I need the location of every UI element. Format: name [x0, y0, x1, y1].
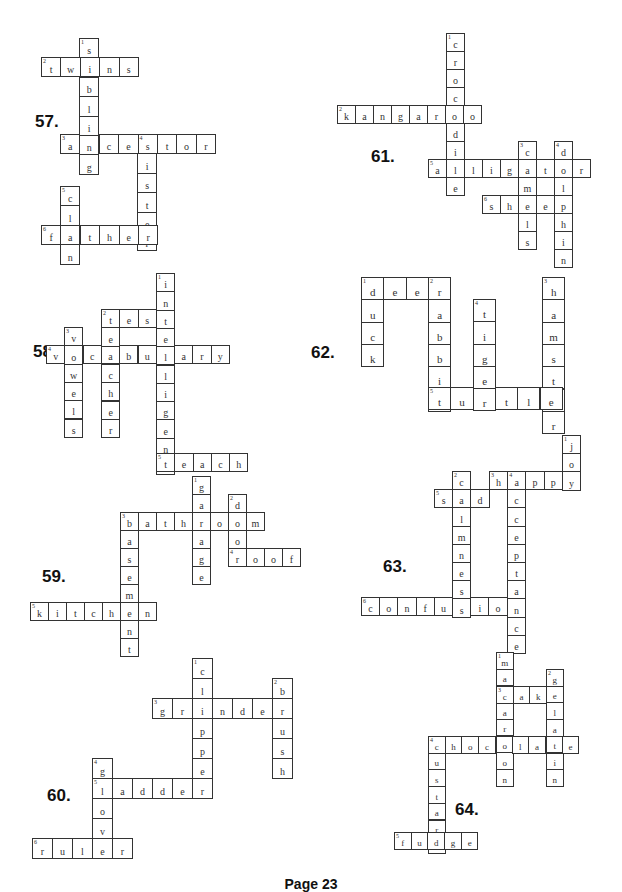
crossword-cell[interactable]: e: [540, 387, 563, 410]
crossword-cell[interactable]: s4: [138, 134, 158, 154]
crossword-cell[interactable]: t2: [101, 309, 120, 328]
crossword-cell[interactable]: s5: [434, 489, 453, 508]
crossword-cell[interactable]: o: [446, 69, 465, 88]
crossword-cell[interactable]: e: [172, 778, 193, 799]
crossword-cell[interactable]: c4: [428, 736, 446, 754]
crossword-cell[interactable]: c1: [192, 658, 213, 679]
crossword-cell[interactable]: b: [79, 77, 99, 97]
crossword-cell[interactable]: s: [137, 173, 157, 193]
crossword-cell[interactable]: d: [232, 698, 253, 719]
crossword-cell[interactable]: t5: [156, 453, 175, 472]
crossword-cell[interactable]: a5: [428, 159, 447, 178]
crossword-cell[interactable]: u: [138, 345, 157, 364]
crossword-cell[interactable]: e: [473, 366, 496, 389]
crossword-cell[interactable]: u: [272, 718, 293, 739]
crossword-cell[interactable]: r: [272, 698, 293, 719]
crossword-cell[interactable]: m: [542, 322, 565, 345]
crossword-cell[interactable]: g4: [92, 758, 113, 779]
crossword-cell[interactable]: p: [192, 718, 213, 739]
crossword-cell[interactable]: o: [461, 736, 479, 754]
crossword-cell[interactable]: c6: [361, 597, 380, 616]
crossword-cell[interactable]: f5: [394, 832, 412, 850]
crossword-cell[interactable]: t: [120, 638, 139, 657]
crossword-cell[interactable]: o: [264, 548, 283, 567]
crossword-cell[interactable]: k: [361, 344, 384, 367]
crossword-cell[interactable]: a3: [60, 134, 80, 154]
crossword-cell[interactable]: t: [156, 310, 175, 329]
crossword-cell[interactable]: r: [446, 51, 465, 70]
crossword-cell[interactable]: r: [496, 719, 514, 737]
crossword-cell[interactable]: i: [482, 159, 501, 178]
crossword-cell[interactable]: i: [546, 753, 564, 771]
crossword-cell[interactable]: b: [428, 344, 451, 367]
crossword-cell[interactable]: c: [507, 617, 526, 636]
crossword-cell[interactable]: o: [64, 345, 83, 364]
crossword-cell[interactable]: n: [212, 698, 233, 719]
crossword-cell[interactable]: r: [427, 105, 446, 124]
crossword-cell[interactable]: l: [518, 213, 537, 232]
crossword-cell[interactable]: t: [536, 159, 555, 178]
crossword-cell[interactable]: s: [428, 769, 446, 787]
crossword-cell[interactable]: e: [92, 838, 113, 859]
crossword-cell[interactable]: c: [211, 453, 230, 472]
crossword-cell[interactable]: e: [101, 327, 120, 346]
crossword-cell[interactable]: o: [554, 159, 573, 178]
crossword-cell[interactable]: e: [406, 277, 429, 300]
crossword-cell[interactable]: t4: [473, 299, 496, 322]
crossword-cell[interactable]: l: [546, 702, 564, 720]
crossword-cell[interactable]: p: [192, 738, 213, 759]
crossword-cell[interactable]: g: [192, 548, 211, 567]
crossword-cell[interactable]: e: [120, 566, 139, 585]
crossword-cell[interactable]: e: [192, 566, 211, 585]
crossword-cell[interactable]: a: [174, 345, 193, 364]
crossword-cell[interactable]: t2: [41, 57, 61, 77]
crossword-cell[interactable]: n: [496, 769, 514, 787]
crossword-cell[interactable]: k: [529, 686, 547, 704]
crossword-cell[interactable]: r: [138, 225, 158, 245]
crossword-cell[interactable]: i: [137, 153, 157, 173]
crossword-cell[interactable]: f6: [41, 225, 61, 245]
crossword-cell[interactable]: f: [416, 597, 435, 616]
crossword-cell[interactable]: o: [228, 530, 247, 549]
crossword-cell[interactable]: l: [79, 96, 99, 116]
crossword-cell[interactable]: i: [554, 231, 573, 250]
crossword-cell[interactable]: c: [507, 489, 526, 508]
crossword-cell[interactable]: h: [272, 758, 293, 779]
crossword-cell[interactable]: r: [572, 159, 591, 178]
crossword-cell[interactable]: t: [542, 366, 565, 389]
crossword-cell[interactable]: e: [174, 453, 193, 472]
crossword-cell[interactable]: h: [229, 453, 248, 472]
crossword-cell[interactable]: n: [120, 620, 139, 639]
crossword-cell[interactable]: e: [383, 277, 406, 300]
crossword-cell[interactable]: h: [102, 602, 121, 621]
crossword-cell[interactable]: h: [500, 195, 519, 214]
crossword-cell[interactable]: k2: [337, 105, 356, 124]
crossword-cell[interactable]: e: [452, 562, 471, 581]
crossword-cell[interactable]: d1: [361, 277, 384, 300]
crossword-cell[interactable]: e: [118, 134, 138, 154]
crossword-cell[interactable]: c5: [60, 186, 80, 206]
crossword-cell[interactable]: p: [544, 471, 563, 490]
crossword-cell[interactable]: y: [562, 471, 581, 490]
crossword-cell[interactable]: w: [60, 57, 80, 77]
crossword-cell[interactable]: n: [554, 249, 573, 268]
crossword-cell[interactable]: u: [434, 597, 453, 616]
crossword-cell[interactable]: n: [138, 602, 157, 621]
crossword-cell[interactable]: r: [192, 345, 211, 364]
crossword-cell[interactable]: p: [525, 471, 544, 490]
crossword-cell[interactable]: h3: [542, 277, 565, 300]
crossword-cell[interactable]: h: [101, 382, 120, 401]
crossword-cell[interactable]: m: [518, 177, 537, 196]
crossword-cell[interactable]: d: [470, 489, 489, 508]
crossword-cell[interactable]: m1: [496, 652, 514, 670]
crossword-cell[interactable]: l: [464, 159, 483, 178]
crossword-cell[interactable]: a: [192, 494, 211, 513]
crossword-cell[interactable]: t: [137, 192, 157, 212]
crossword-cell[interactable]: t: [507, 562, 526, 581]
crossword-cell[interactable]: d: [132, 778, 153, 799]
crossword-cell[interactable]: d2: [228, 494, 247, 513]
crossword-cell[interactable]: g: [156, 401, 175, 420]
crossword-cell[interactable]: r: [112, 838, 133, 859]
crossword-cell[interactable]: o: [210, 512, 229, 531]
crossword-cell[interactable]: a: [60, 225, 80, 245]
